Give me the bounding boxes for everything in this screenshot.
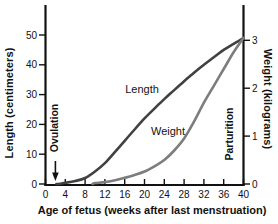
x-tick-label: 40 bbox=[238, 189, 250, 200]
ovulation-arrow-head bbox=[52, 173, 59, 182]
x-tick-label: 12 bbox=[99, 189, 111, 200]
x-tick-label: 0 bbox=[43, 189, 49, 200]
fetal-growth-chart: 0481216202428323640010203040500123 Lengt… bbox=[0, 0, 278, 224]
weight-curve bbox=[93, 38, 244, 184]
y-right-tick-label: 0 bbox=[252, 179, 258, 190]
y-left-axis-title: Length (centimeters) bbox=[3, 48, 15, 159]
x-tick-label: 32 bbox=[198, 189, 210, 200]
y-left-tick-label: 10 bbox=[26, 149, 38, 160]
x-axis-title: Age of fetus (weeks after last menstruat… bbox=[38, 204, 267, 216]
y-left-tick-label: 0 bbox=[31, 179, 37, 190]
x-tick-label: 28 bbox=[179, 189, 191, 200]
weight-curve-label: Weight bbox=[151, 125, 185, 137]
x-tick-label: 8 bbox=[82, 189, 88, 200]
y-left-tick-label: 30 bbox=[26, 89, 38, 100]
x-tick-label: 24 bbox=[159, 189, 171, 200]
y-right-axis-title: Weight (kilograms) bbox=[262, 49, 274, 150]
y-left-tick-label: 40 bbox=[26, 59, 38, 70]
length-curve-label: Length bbox=[125, 83, 159, 95]
ovulation-annotation-label: Ovulation bbox=[48, 104, 60, 152]
x-tick-label: 4 bbox=[63, 189, 69, 200]
parturition-annotation-label: Parturition bbox=[223, 107, 235, 160]
y-right-tick-label: 2 bbox=[252, 83, 258, 94]
x-tick-label: 16 bbox=[119, 189, 131, 200]
y-left-tick-label: 50 bbox=[26, 30, 38, 41]
x-tick-label: 36 bbox=[218, 189, 230, 200]
chart-canvas: 0481216202428323640010203040500123 bbox=[0, 0, 278, 224]
y-left-tick-label: 20 bbox=[26, 119, 38, 130]
length-curve bbox=[56, 38, 243, 184]
y-right-tick-label: 1 bbox=[252, 131, 258, 142]
x-tick-label: 20 bbox=[139, 189, 151, 200]
y-right-tick-label: 3 bbox=[252, 35, 258, 46]
